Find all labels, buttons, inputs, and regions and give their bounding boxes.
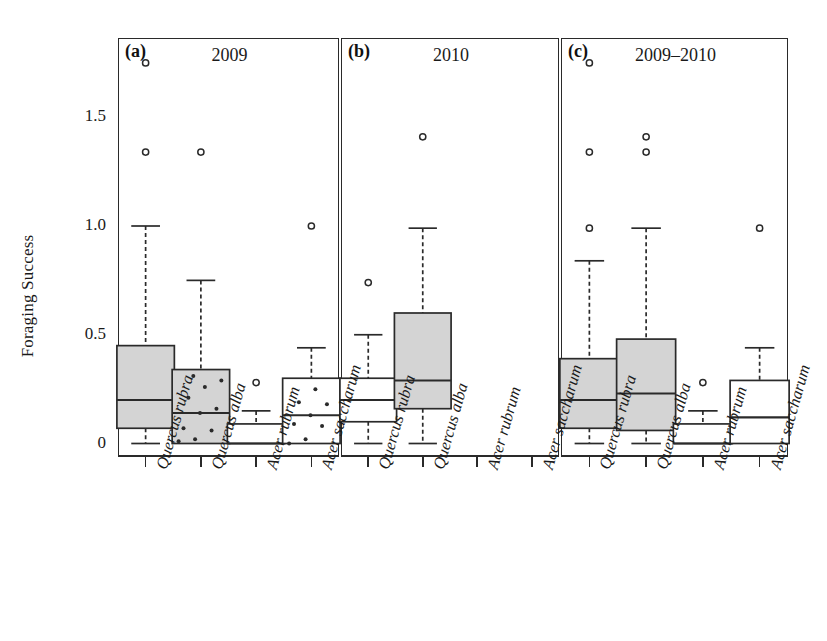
data-point [304, 437, 308, 441]
outlier-point [365, 279, 371, 285]
x-tick-mark [645, 456, 647, 467]
x-tick-mark [759, 456, 761, 467]
x-tick-mark [255, 456, 257, 467]
outlier-point [143, 149, 149, 155]
outlier-point [643, 149, 649, 155]
data-point [193, 437, 197, 441]
outlier-point [586, 60, 592, 66]
outlier-point [198, 149, 204, 155]
data-point [308, 413, 312, 417]
data-point [219, 378, 223, 382]
outlier-point [143, 60, 149, 66]
outlier-point [643, 134, 649, 140]
boxplot-a-quercus-rubra [117, 60, 174, 444]
data-point [210, 428, 214, 432]
data-point [313, 387, 317, 391]
x-tick-mark [422, 456, 424, 467]
x-tick-mark [367, 456, 369, 467]
data-point [320, 424, 324, 428]
outlier-point [253, 380, 259, 386]
x-tick-mark [531, 456, 533, 467]
x-tick-mark [702, 456, 704, 467]
x-tick-mark [200, 456, 202, 467]
figure-boxplot-foraging-success: Foraging Success 00.51.01.5 (a) 2009 (b)… [0, 0, 827, 641]
x-tick-mark [589, 456, 591, 467]
data-point [203, 385, 207, 389]
boxplot-canvas [0, 0, 827, 641]
outlier-point [586, 149, 592, 155]
data-point [214, 407, 218, 411]
outlier-point [308, 223, 314, 229]
outlier-point [700, 380, 706, 386]
outlier-point [586, 225, 592, 231]
data-point [325, 402, 329, 406]
x-tick-mark [311, 456, 313, 467]
data-point [198, 411, 202, 415]
outlier-point [420, 134, 426, 140]
outlier-point [757, 225, 763, 231]
x-tick-mark [476, 456, 478, 467]
x-tick-mark [145, 456, 147, 467]
